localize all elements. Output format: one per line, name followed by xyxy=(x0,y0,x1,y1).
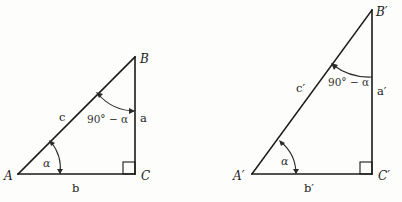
vertex-c-label: C xyxy=(141,169,150,183)
angle-complement-label: 90° − α xyxy=(87,113,128,125)
side-c-label: c xyxy=(59,110,65,124)
vertex-a-label: A xyxy=(3,169,13,183)
right-angle-marker xyxy=(360,162,372,174)
side-c-prime-label: c′ xyxy=(296,81,305,95)
arrowhead-icon xyxy=(129,108,135,114)
vertex-c-prime-label: C′ xyxy=(378,169,390,183)
similar-triangles-diagram: A B C c a b α 90° − α A′ B′ C′ c′ a′ b′ … xyxy=(0,0,402,202)
triangle-abc: A B C c a b α 90° − α xyxy=(3,52,150,195)
triangle-abc-prime: A′ B′ C′ c′ a′ b′ α 90° − α xyxy=(232,5,390,195)
side-c-prime xyxy=(252,10,372,174)
side-b-prime-label: b′ xyxy=(304,181,314,195)
angle-alpha-label: α xyxy=(43,157,51,170)
side-a-label: a xyxy=(140,111,147,125)
side-b-label: b xyxy=(72,181,79,195)
arrowhead-icon xyxy=(331,63,338,70)
vertex-b-label: B xyxy=(139,52,149,66)
vertex-a-prime-label: A′ xyxy=(232,169,245,183)
vertex-b-prime-label: B′ xyxy=(375,5,388,19)
angle-alpha-label: α xyxy=(281,155,289,168)
side-a-prime-label: a′ xyxy=(377,84,387,98)
right-angle-marker xyxy=(123,162,135,174)
angle-complement-label: 90° − α xyxy=(328,76,369,88)
